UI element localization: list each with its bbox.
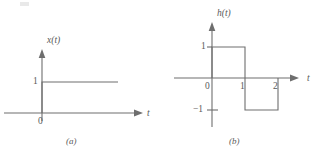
x-axis-arrowhead-b [290,75,299,82]
panel-b: h(t) t 0 1 2 1 −1 (b) [160,0,321,156]
x-axis-label-b: t [307,74,310,84]
panel-b-plot [160,0,321,156]
figure-container: x(t) t 0 1 (a) h(t) t 0 1 2 1 −1 (b) [0,0,321,156]
caption-a: (a) [66,137,77,146]
x-axis-arrowhead-a [134,110,143,117]
x-tick-label-b-2: 2 [273,82,278,92]
signal-curve-a [42,82,118,113]
panel-a-plot [0,0,160,156]
y-tick-label-b-minus1: −1 [193,105,203,115]
x-axis-label-a: t [147,109,150,119]
y-axis-label-b: h(t) [217,9,231,19]
y-axis-arrowhead-a [39,49,46,58]
x-tick-label-b-1: 1 [240,82,245,92]
y-axis-arrowhead-b [209,22,216,31]
y-axis-label-a: x(t) [47,36,60,46]
y-tick-label-a-1: 1 [33,77,38,87]
origin-label-a: 0 [38,117,43,127]
origin-label-b: 0 [205,82,210,92]
y-tick-label-b-1: 1 [201,42,206,52]
panel-a: x(t) t 0 1 (a) [0,0,160,156]
caption-b: (b) [229,137,240,146]
